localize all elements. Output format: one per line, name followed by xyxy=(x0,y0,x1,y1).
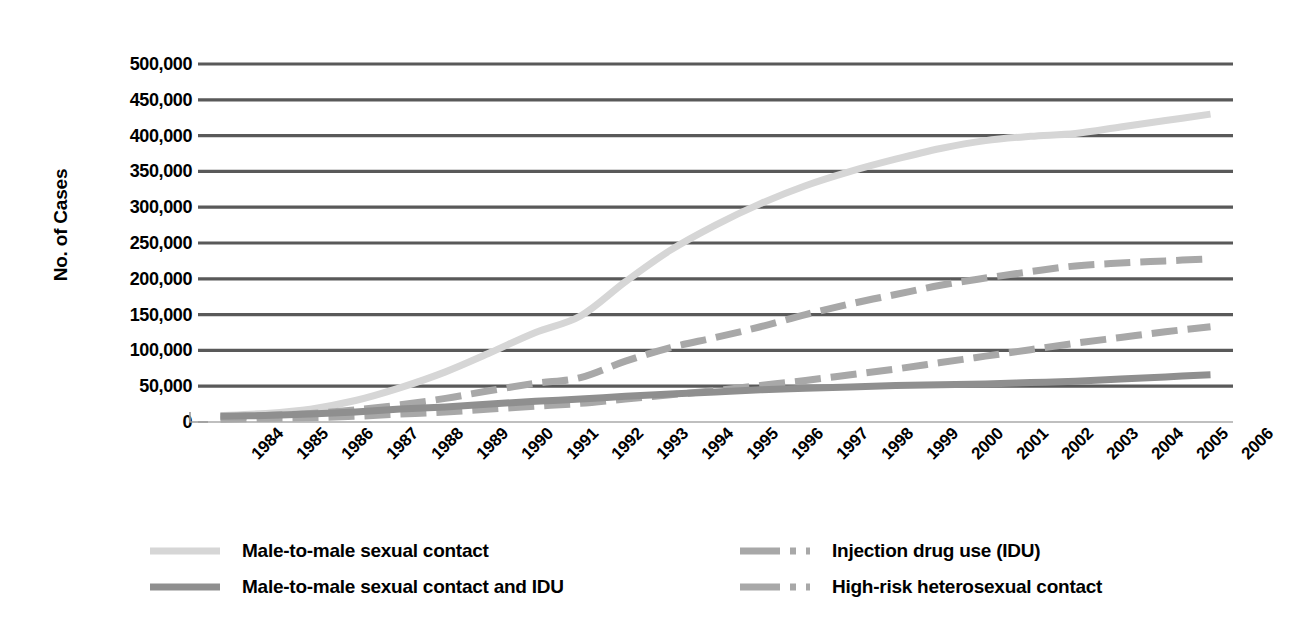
legend-item[interactable]: Male-to-male sexual contact xyxy=(150,536,489,566)
y-tick-label: 450,000 xyxy=(88,91,192,109)
x-axis-tick-labels: 1984198519861987198819891990199119921993… xyxy=(198,424,1233,514)
x-tick-label: 1990 xyxy=(517,424,557,464)
y-tick-label: 400,000 xyxy=(88,127,192,145)
x-tick-label: 2002 xyxy=(1057,424,1097,464)
x-tick-label: 1997 xyxy=(832,424,872,464)
y-axis-title: No. of Cases xyxy=(50,125,72,325)
y-axis-tick-labels: 500,000450,000400,000350,000300,000250,0… xyxy=(88,55,192,431)
x-tick-label: 1999 xyxy=(922,424,962,464)
axis-origin-tick xyxy=(190,412,208,422)
y-tick-label: 250,000 xyxy=(88,234,192,252)
y-tick-label: 500,000 xyxy=(88,55,192,73)
legend-label: High-risk heterosexual contact xyxy=(832,576,1102,598)
x-tick-label: 1987 xyxy=(382,424,422,464)
x-tick-label: 1998 xyxy=(877,424,917,464)
x-tick-label: 1989 xyxy=(472,424,512,464)
x-tick-label: 2003 xyxy=(1102,424,1142,464)
y-tick-label: 100,000 xyxy=(88,341,192,359)
chart-canvas xyxy=(198,64,1233,422)
legend-label: Male-to-male sexual contact xyxy=(242,540,489,562)
x-tick-label: 2004 xyxy=(1147,424,1187,464)
legend-swatch-icon xyxy=(150,536,220,566)
x-tick-label: 2000 xyxy=(967,424,1007,464)
y-tick-label: 300,000 xyxy=(88,198,192,216)
series-line xyxy=(221,114,1211,415)
legend-item[interactable]: Male-to-male sexual contact and IDU xyxy=(150,572,564,602)
y-tick-label: 150,000 xyxy=(88,306,192,324)
plot-area xyxy=(198,64,1233,422)
x-tick-label: 1995 xyxy=(742,424,782,464)
x-tick-label: 1996 xyxy=(787,424,827,464)
legend-label: Injection drug use (IDU) xyxy=(832,540,1040,562)
x-tick-label: 1993 xyxy=(652,424,692,464)
hiv-cases-line-chart: No. of Cases 500,000450,000400,000350,00… xyxy=(0,0,1299,644)
y-tick-label: 50,000 xyxy=(88,377,192,395)
x-tick-label: 1991 xyxy=(562,424,602,464)
x-tick-label: 2001 xyxy=(1012,424,1052,464)
x-tick-label: 1984 xyxy=(247,424,287,464)
y-tick-label: 0 xyxy=(88,413,192,431)
legend-swatch-icon xyxy=(150,572,220,602)
legend-item[interactable]: Injection drug use (IDU) xyxy=(740,536,1040,566)
chart-legend: Male-to-male sexual contactMale-to-male … xyxy=(150,536,1250,608)
x-tick-label: 1985 xyxy=(292,424,332,464)
legend-swatch-icon xyxy=(740,572,810,602)
legend-item[interactable]: High-risk heterosexual contact xyxy=(740,572,1102,602)
y-tick-label: 200,000 xyxy=(88,270,192,288)
x-tick-label: 1992 xyxy=(607,424,647,464)
x-tick-label: 1986 xyxy=(337,424,377,464)
x-tick-label: 2006 xyxy=(1237,424,1277,464)
y-tick-label: 350,000 xyxy=(88,162,192,180)
legend-label: Male-to-male sexual contact and IDU xyxy=(242,576,564,598)
legend-swatch-icon xyxy=(740,536,810,566)
x-tick-label: 1994 xyxy=(697,424,737,464)
x-tick-label: 2005 xyxy=(1192,424,1232,464)
x-tick-label: 1988 xyxy=(427,424,467,464)
